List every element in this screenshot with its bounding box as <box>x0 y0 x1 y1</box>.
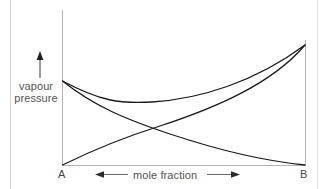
curve-total-vapour-pressure <box>63 45 306 103</box>
arrow-right-icon <box>207 171 240 177</box>
y-axis-label-line2: pressure <box>11 92 61 104</box>
y-axis-label-line1: vapour <box>11 80 61 92</box>
arrow-left-icon <box>95 171 128 177</box>
arrow-up-icon <box>37 51 44 78</box>
x-axis-label: mole fraction <box>133 169 197 181</box>
x-tick-label-a: A <box>58 168 65 180</box>
vapour-pressure-chart: vapour pressure mole fraction A B <box>0 0 325 189</box>
y-axis-label: vapour pressure <box>11 80 61 104</box>
curve-partial-pressure-a <box>63 81 306 165</box>
x-tick-label-b: B <box>300 168 307 180</box>
